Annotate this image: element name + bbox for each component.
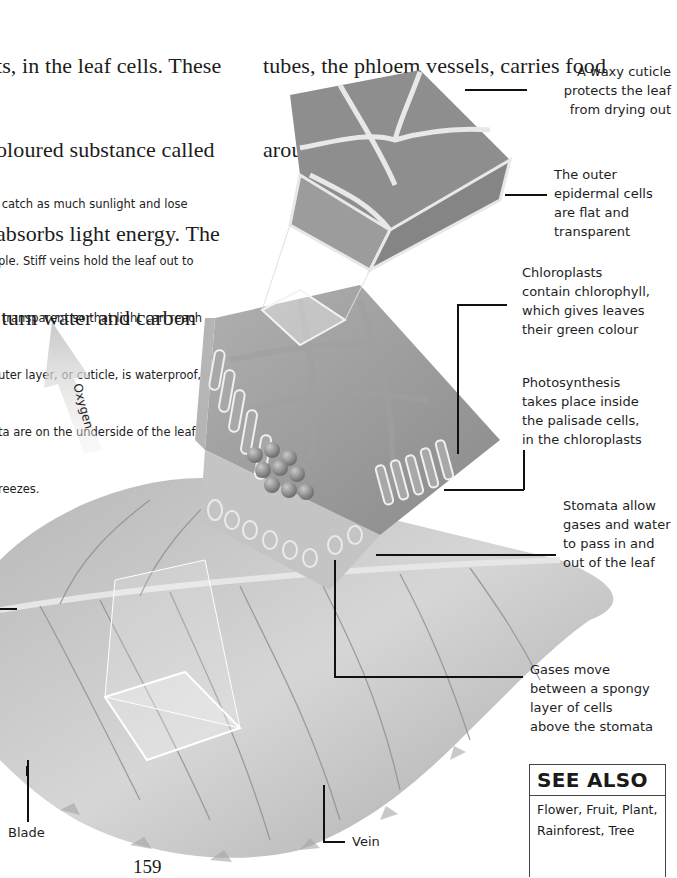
leader-epidermal (505, 194, 547, 196)
leader-bottom-left-stub (26, 766, 28, 776)
leader-vein-h (323, 841, 345, 843)
leader-chloroplasts-v (457, 304, 459, 454)
label-vein: Vein (352, 832, 380, 851)
leader-vein-v (323, 785, 325, 842)
see-also-links[interactable]: Flower, Fruit, Plant, Rainforest, Tree (530, 796, 665, 844)
leader-chloroplasts-h (457, 304, 507, 306)
leader-stomata (376, 554, 556, 556)
label-gases: Gases move between a spongy layer of cel… (530, 660, 653, 736)
label-photosynthesis: Photosynthesis takes place inside the pa… (522, 373, 642, 449)
leader-cuticle (465, 89, 527, 91)
label-cuticle: A waxy cuticle protects the leaf from dr… (536, 62, 671, 119)
label-blade: Blade (8, 823, 45, 842)
label-stomata: Stomata allow gases and water to pass in… (563, 496, 671, 572)
leader-photosynthesis-h (444, 489, 524, 491)
leader-gases-v (334, 560, 336, 677)
see-also-box: SEE ALSO Flower, Fruit, Plant, Rainfores… (529, 764, 666, 877)
label-epidermal: The outer epidermal cells are flat and t… (554, 165, 653, 241)
leader-left-stub (0, 608, 17, 610)
see-also-heading: SEE ALSO (530, 765, 665, 796)
epidermis-detail-block (262, 70, 510, 320)
page-number: 159 (133, 856, 162, 878)
leader-gases-h (334, 676, 523, 678)
label-chloroplasts: Chloroplasts contain chlorophyll, which … (522, 263, 650, 339)
leader-photosynthesis-v (523, 450, 525, 490)
